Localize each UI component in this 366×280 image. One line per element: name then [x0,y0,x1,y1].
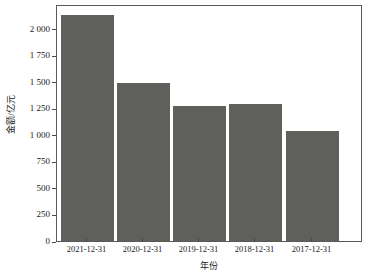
y-axis-tick-label: 1 750 [30,50,50,61]
y-axis-tick-label: 250 [37,209,51,220]
bar-2021-12-31 [61,15,114,241]
y-axis-title: 金额/亿元 [4,65,17,165]
plot-area [56,5,362,242]
y-axis-tick-label: 2 000 [30,24,50,35]
bar-2019-12-31 [173,106,226,241]
y-axis-tick-label: 1 000 [30,130,50,141]
x-axis-tick-mark [142,238,143,242]
bar-chart-figure: 金额/亿元 0 250 500 750 1 000 1 250 1 500 1 … [0,0,366,280]
x-axis-tick-mark [86,238,87,242]
bar-2018-12-31 [229,104,282,241]
bar-2020-12-31 [117,83,170,241]
y-axis-tick-label: 500 [37,183,51,194]
y-axis-tick-label: 1 250 [30,103,50,114]
bar-2017-12-31 [286,131,339,241]
x-axis-tick-mark [198,238,199,242]
bar-series [57,6,361,241]
x-axis-tick-mark [311,238,312,242]
x-axis-title: 年份 [56,259,362,272]
x-axis-tick-mark [254,238,255,242]
y-axis-tick-label: 1 500 [30,77,50,88]
x-axis-tick-label: 2017-12-31 [272,244,352,255]
y-axis-tick-label: 750 [37,156,51,167]
